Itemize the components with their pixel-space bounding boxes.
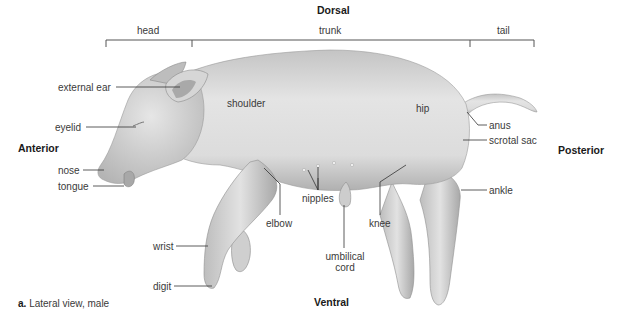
elbow-label: elbow [266, 218, 292, 229]
external-ear-label: external ear [58, 82, 111, 93]
figure-caption: a. Lateral view, male [18, 298, 109, 309]
pig-illustration [0, 0, 623, 325]
caption-text: Lateral view, male [29, 298, 109, 309]
region-head-label: head [137, 25, 159, 36]
umbilical-cord-line1: umbilical [324, 251, 366, 262]
umbilical-cord-label: umbilical cord [324, 251, 366, 273]
nipples-label: nipples [302, 193, 334, 204]
ankle-label: ankle [489, 185, 513, 196]
anterior-label: Anterior [18, 143, 59, 154]
tongue-label: tongue [58, 181, 89, 192]
dorsal-label: Dorsal [317, 5, 350, 16]
scrotal-sac-label: scrotal sac [489, 135, 537, 146]
umbilical-cord-line2: cord [324, 262, 366, 273]
shoulder-label: shoulder [227, 98, 265, 109]
posterior-label: Posterior [558, 145, 604, 156]
region-trunk-label: trunk [319, 25, 341, 36]
digit-label: digit [153, 281, 171, 292]
eyelid-label: eyelid [55, 122, 81, 133]
wrist-label: wrist [153, 241, 174, 252]
region-tail-label: tail [497, 25, 510, 36]
region-bracket [106, 40, 534, 47]
caption-letter: a. [18, 298, 26, 309]
fetal-pig-diagram: Dorsal Anterior Posterior Ventral head t… [0, 0, 623, 325]
ventral-label: Ventral [314, 297, 349, 308]
knee-label: knee [369, 218, 391, 229]
hip-label: hip [416, 103, 429, 114]
anus-label: anus [489, 120, 511, 131]
nose-label: nose [58, 165, 80, 176]
